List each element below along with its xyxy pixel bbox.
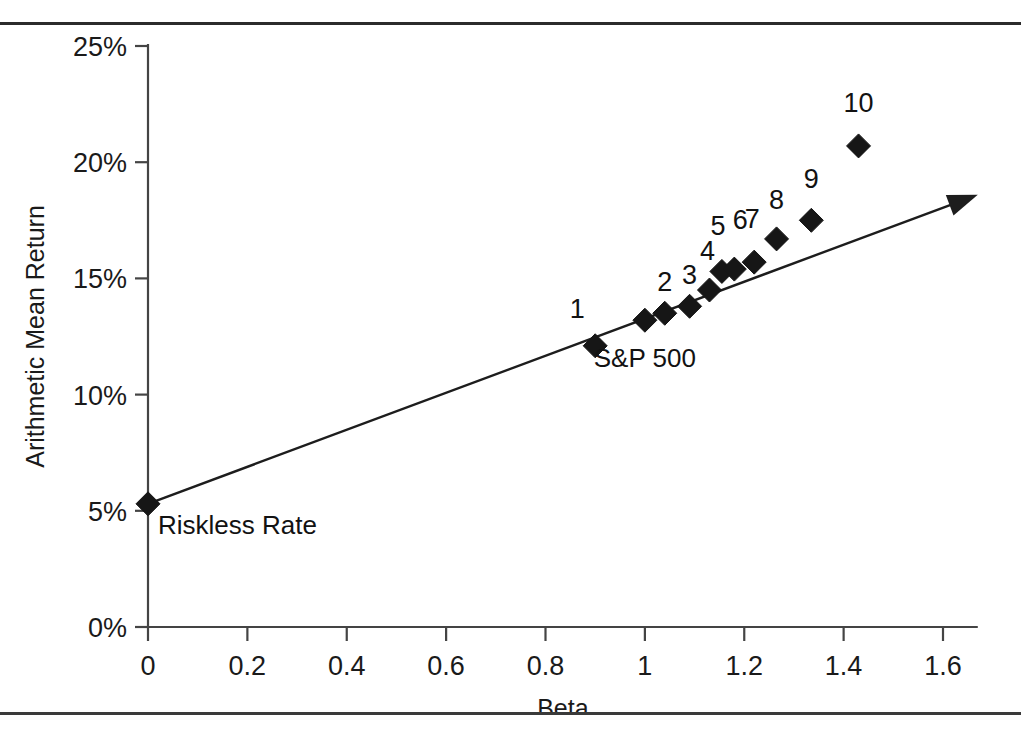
- data-point-marker-7: [742, 250, 766, 274]
- figure-title-strip: [0, 0, 1021, 22]
- y-tick-label: 15%: [73, 264, 127, 294]
- x-tick-label: 0.6: [427, 651, 465, 681]
- x-tick-label: 1.6: [924, 651, 962, 681]
- x-tick-label: 0.4: [328, 651, 366, 681]
- security-market-line: [148, 204, 953, 504]
- y-tick-label: 10%: [73, 381, 127, 411]
- data-point-label-9: 9: [804, 164, 819, 194]
- annotation-s-p-500: S&P 500: [594, 343, 696, 373]
- x-tick-label: 0: [140, 651, 155, 681]
- data-point-marker-2: [653, 301, 677, 325]
- y-tick-label: 5%: [88, 497, 127, 527]
- data-point-label-10: 10: [844, 88, 874, 118]
- sml-line-layer: [148, 195, 978, 504]
- x-tick-label: 1.2: [725, 651, 763, 681]
- y-tick-label: 25%: [73, 32, 127, 62]
- y-tick-label: 0%: [88, 613, 127, 643]
- chart-figure: 0%5%10%15%20%25%00.20.40.60.811.21.41.6 …: [0, 0, 1021, 734]
- bottom-divider-rule: [0, 712, 1021, 715]
- data-point-label-5: 5: [710, 211, 725, 241]
- sml-arrowhead: [946, 195, 978, 216]
- data-point-marker-riskless-rate: [136, 492, 160, 516]
- scatter-plot: 0%5%10%15%20%25%00.20.40.60.811.21.41.6 …: [0, 22, 1021, 712]
- data-markers-layer: [136, 134, 871, 516]
- x-axis-title: Beta: [537, 694, 589, 712]
- axes-layer: 0%5%10%15%20%25%00.20.40.60.811.21.41.6: [73, 32, 978, 681]
- x-tick-label: 1: [637, 651, 652, 681]
- y-axis-title: Arithmetic Mean Return: [21, 205, 49, 468]
- data-point-marker-s-p-500: [633, 308, 657, 332]
- data-point-marker-9: [799, 208, 823, 232]
- data-labels-layer: 12345678910Riskless RateS&P 500: [158, 88, 874, 540]
- data-point-label-1: 1: [570, 294, 585, 324]
- x-tick-label: 1.4: [825, 651, 863, 681]
- x-tick-label: 0.2: [229, 651, 267, 681]
- x-tick-label: 0.8: [527, 651, 565, 681]
- data-point-label-8: 8: [769, 185, 784, 215]
- data-point-label-2: 2: [657, 267, 672, 297]
- data-point-marker-8: [765, 227, 789, 251]
- annotation-riskless-rate: Riskless Rate: [158, 510, 317, 540]
- data-point-label-3: 3: [682, 260, 697, 290]
- data-point-label-7: 7: [745, 204, 760, 234]
- data-point-marker-10: [847, 134, 871, 158]
- y-tick-label: 20%: [73, 148, 127, 178]
